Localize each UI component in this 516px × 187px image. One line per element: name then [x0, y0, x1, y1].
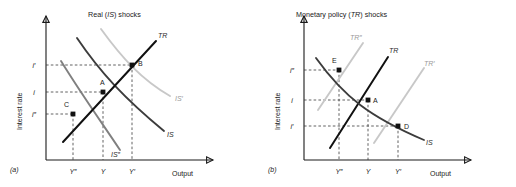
panel-b-ytick-2: i′ — [291, 123, 295, 130]
curve-label-is-b: IS — [426, 139, 433, 146]
point-a-marker — [101, 90, 106, 95]
panel-b-xtick-0: Y″ — [335, 168, 343, 175]
panel-b-x-axis-label: Output — [430, 170, 451, 178]
point-label-a: A — [100, 79, 105, 86]
panel-a-xtick-2: Y′ — [129, 168, 136, 175]
curve-label-tr-a: TR — [158, 32, 167, 39]
curve-label-tr-prime-b: TR′ — [424, 60, 435, 67]
point-label-b: B — [138, 60, 143, 67]
panel-b-title: Monetary policy (TR) shocks — [296, 10, 387, 19]
panel-b-ytick-1: i — [291, 97, 293, 104]
panel-a-x-axis-label: Output — [172, 170, 193, 178]
point-label-e: E — [332, 57, 337, 64]
panel-a-caption: (a) — [10, 166, 19, 174]
point-d-marker — [396, 124, 401, 129]
curve-is-a — [77, 38, 164, 131]
panel-monetary-policy-tr-shocks: Monetary policy (TR) shocks Interest rat… — [258, 0, 516, 187]
panel-a-title: Real (IS) shocks — [88, 10, 141, 19]
point-label-c: C — [64, 101, 69, 108]
curve-label-tr-b: TR — [389, 47, 398, 54]
curve-tr-prime-b — [374, 68, 424, 143]
panel-real-is-shocks: Real (IS) shocks Interest rate Output — [0, 0, 258, 187]
panel-a-xtick-1: Y — [101, 168, 107, 175]
panel-b-xtick-1: Y — [366, 168, 372, 175]
figure-container: Real (IS) shocks Interest rate Output — [0, 0, 516, 187]
panel-a-ytick-0: i′ — [33, 62, 37, 69]
curve-is-double-prime-a — [61, 61, 120, 150]
panel-a-xtick-0: Y″ — [69, 168, 77, 175]
point-e-marker — [337, 68, 342, 73]
curve-label-is-prime-a: IS′ — [175, 95, 184, 102]
panel-a-axes — [43, 16, 213, 163]
curve-tr-a — [63, 41, 156, 142]
curve-tr-double-prime-b — [318, 43, 363, 110]
panel-b-axes — [301, 16, 471, 163]
point-a-marker-b — [366, 98, 371, 103]
panel-b-ytick-0: i″ — [290, 67, 295, 74]
point-label-a-b: A — [373, 97, 378, 104]
panel-b-xtick-2: Y′ — [395, 168, 402, 175]
panel-b-y-axis-label: Interest rate — [274, 93, 281, 130]
point-label-d: D — [404, 123, 409, 130]
panel-a-y-axis-label: Interest rate — [16, 93, 23, 130]
panel-a-ytick-2: i″ — [32, 111, 37, 118]
point-b-marker — [130, 63, 135, 68]
curve-label-is-double-prime-a: IS″ — [111, 151, 121, 158]
curve-label-tr-double-prime-b: TR″ — [350, 34, 362, 41]
panel-b-caption: (b) — [268, 166, 277, 174]
point-c-marker — [71, 112, 76, 117]
curve-label-is-a: IS — [167, 131, 174, 138]
panel-a-ytick-1: i — [33, 89, 35, 96]
